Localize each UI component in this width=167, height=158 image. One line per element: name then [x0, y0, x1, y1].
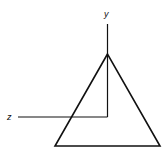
z-axis-label: z [6, 112, 12, 122]
y-axis-label: y [103, 9, 109, 19]
axes-triangle-diagram: y z [0, 0, 167, 158]
